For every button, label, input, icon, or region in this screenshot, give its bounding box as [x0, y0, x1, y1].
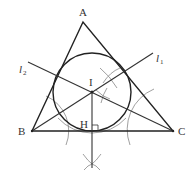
label-i: I	[89, 76, 93, 88]
bisector-line-l2	[28, 62, 173, 131]
label-l1: l 1	[156, 52, 164, 66]
point-c	[172, 130, 174, 132]
triangle-abc	[32, 22, 173, 131]
point-b	[31, 130, 33, 132]
perpendicular-arc-3	[84, 164, 92, 170]
label-l1-main: l	[156, 52, 159, 64]
point-i	[91, 91, 94, 94]
label-l1-sub: 1	[160, 58, 164, 66]
perpendicular-arc-2	[92, 154, 101, 164]
label-l2-main: l	[19, 63, 22, 75]
perpendicular-arc-1	[83, 154, 92, 164]
label-h: H	[80, 118, 88, 130]
label-a: A	[79, 6, 87, 18]
label-l2: l 2	[19, 63, 27, 77]
construction-arcs	[46, 68, 154, 170]
label-l2-sub: 2	[23, 69, 27, 77]
incircle-construction-diagram: A B C I H l 1 l 2	[0, 0, 194, 177]
perpendicular-arc-4	[92, 164, 100, 170]
label-b: B	[18, 125, 25, 137]
label-c: C	[178, 125, 185, 137]
bisector-c-arc-2	[101, 88, 107, 103]
